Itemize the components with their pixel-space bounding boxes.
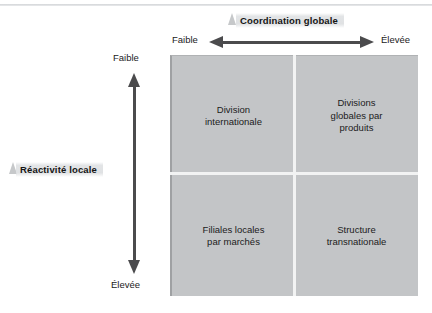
horizontal-axis-title: Coordination globale — [236, 13, 344, 28]
quadrant-bottom-right: Structuretransnationale — [295, 176, 418, 296]
quadrant-top-left: Divisioninternationale — [172, 56, 295, 176]
top-divider-rule — [0, 4, 432, 6]
horizontal-axis-high-label: Élevée — [381, 34, 410, 45]
matrix-figure: Coordination globale Réactivité locale F… — [0, 0, 432, 313]
quadrant-top-right: Divisionsglobales parproduits — [295, 56, 418, 176]
matrix-vertical-divider — [293, 55, 296, 296]
matrix-horizontal-divider — [170, 172, 418, 175]
horizontal-double-arrow-icon — [209, 36, 374, 48]
vertical-axis-title: Réactivité locale — [16, 162, 103, 177]
arrow-shaft — [133, 85, 136, 262]
vertical-double-arrow-icon — [128, 73, 140, 274]
vertical-axis-high-label: Élevée — [111, 279, 140, 290]
arrow-shaft — [222, 41, 361, 44]
arrow-head-left-icon — [209, 36, 223, 48]
quadrant-bottom-left: Filiales localespar marchés — [172, 176, 295, 296]
horizontal-axis-low-label: Faible — [172, 34, 198, 45]
arrow-head-down-icon — [128, 260, 140, 274]
arrow-head-right-icon — [360, 36, 374, 48]
vertical-axis-low-label: Faible — [113, 52, 139, 63]
flag-marker-icon — [228, 13, 236, 25]
